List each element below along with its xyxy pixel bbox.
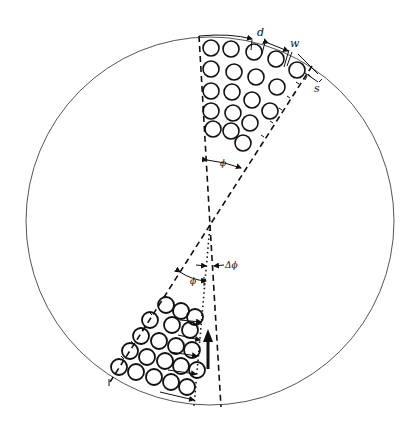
sector-circle (262, 103, 278, 119)
label-delta-phi: Δϕ (224, 260, 238, 270)
arrow-up-icon (203, 329, 213, 342)
sector-circle (244, 92, 260, 108)
bottom-sector-boundaries (110, 225, 221, 407)
top-right-boundary (210, 66, 312, 225)
sector-circle (226, 64, 242, 80)
sector-circle (268, 51, 284, 67)
sector-circle (151, 333, 167, 349)
bottom-sector-circles (111, 297, 205, 395)
sector-circle (289, 62, 305, 78)
sector-circle (235, 135, 251, 151)
sector-circle (158, 297, 174, 313)
delta-phi-dimension (196, 265, 224, 266)
label-phi-top: ϕ (220, 158, 226, 168)
sector-circle (128, 364, 144, 380)
sector-circle (157, 353, 173, 369)
sector-circle (182, 322, 198, 338)
sector-circle (203, 103, 219, 119)
label-w: w (290, 37, 300, 50)
sector-circle (203, 61, 219, 77)
diagram-canvas: d w s ϕ ϕ (0, 0, 413, 428)
sector-circle (246, 44, 262, 60)
top-sector-circles (203, 40, 305, 151)
bottom-dashed-boundary (210, 225, 221, 407)
label-phi-bottom: ϕ (190, 276, 196, 286)
sector-circle (223, 41, 239, 57)
sector-circle (179, 379, 195, 395)
sector-circle (248, 69, 264, 85)
sector-circle (146, 369, 162, 385)
sector-circle (203, 40, 219, 56)
label-s: s (314, 82, 320, 95)
sector-circle (163, 374, 179, 390)
sector-circle (205, 121, 221, 137)
sector-circle (203, 83, 219, 99)
sector-circle (224, 84, 240, 100)
bottom-left-boundary (110, 225, 210, 382)
sector-circle (242, 115, 258, 131)
top-edge-ticks (261, 82, 299, 137)
sector-circle (139, 349, 155, 365)
sector-circle (223, 123, 239, 139)
sector-circle (133, 328, 149, 344)
sector-circle (225, 105, 241, 121)
top-sector-boundaries (199, 36, 312, 225)
diagram-svg: d w s ϕ ϕ (0, 0, 413, 428)
sector-circle (122, 343, 138, 359)
sector-circle (164, 317, 180, 333)
sector-circle (269, 79, 285, 95)
label-d: d (257, 26, 264, 39)
flow-direction-arrow (203, 329, 213, 369)
